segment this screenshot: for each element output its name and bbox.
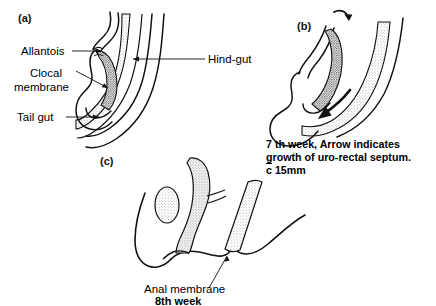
- panel-b-caption-line2: growth of uro-rectal septum.: [266, 151, 411, 164]
- embryology-figure: (a) Allantois Clocal membrane Tail gut H…: [0, 0, 436, 306]
- measure-value: 15mm: [272, 164, 306, 176]
- panel-a-letter: (a): [18, 12, 31, 24]
- panel-b-caption-measure: c 15mm: [266, 164, 306, 177]
- label-hind-gut: Hind-gut: [208, 52, 251, 66]
- panel-b-caption-line1: 7 th week, Arrow indicates: [266, 138, 400, 151]
- panel-c-art: [135, 158, 305, 288]
- label-allantois: Allantois: [21, 44, 64, 58]
- label-tail-gut: Tail gut: [17, 110, 53, 124]
- panel-c-letter: (c): [100, 155, 113, 167]
- panel-b-letter: (b): [297, 20, 311, 32]
- panel-a-art: [66, 12, 205, 148]
- label-cloacal-membrane-line1: Clocal: [30, 66, 62, 80]
- label-cloacal-membrane-line2: membrane: [14, 80, 69, 94]
- label-anal-membrane: Anal membrane: [144, 282, 225, 296]
- panel-c-caption-week: 8th week: [155, 295, 201, 306]
- panel-b-art: [270, 11, 403, 146]
